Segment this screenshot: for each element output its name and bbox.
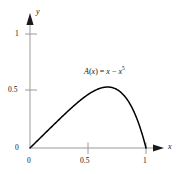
y-axis-arrowhead <box>26 13 33 25</box>
x-tick-label-half: 0.5 <box>80 157 89 165</box>
curve-equation-label: A(x) = x − x5 <box>84 68 125 76</box>
x-tick-label-one: 1 <box>143 157 147 165</box>
equation-term-two-exponent: 5 <box>122 65 125 71</box>
y-tick-label-half: 0.5 <box>8 86 17 94</box>
x-axis-arrowhead <box>153 145 164 152</box>
x-tick-label-0: 0 <box>27 157 31 165</box>
y-axis-label: y <box>36 8 40 16</box>
plot-canvas <box>0 0 178 174</box>
function-curve <box>30 87 146 148</box>
x-axis-label: x <box>168 143 172 151</box>
y-tick-label-0: 0 <box>15 144 19 152</box>
y-tick-label-1: 1 <box>15 30 19 38</box>
figure-container: y x 1 0.5 0 0 0.5 1 A(x) = x − x5 <box>0 0 178 174</box>
